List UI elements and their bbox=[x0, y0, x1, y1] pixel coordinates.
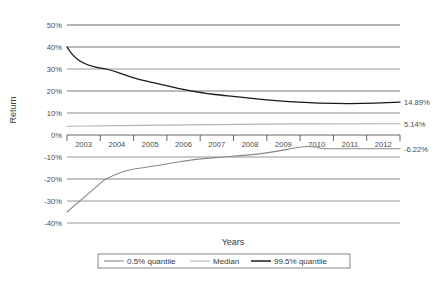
chart-legend: 0.5% quantile Median 99.5% quantile bbox=[98, 254, 350, 268]
y-tick-label-20: 20% bbox=[47, 87, 62, 96]
x-tick-label-2009: 2009 bbox=[275, 140, 292, 149]
x-tick-label-2006: 2006 bbox=[175, 140, 192, 149]
y-tick-label-neg40: -40% bbox=[44, 219, 62, 228]
legend-label-median: Median bbox=[213, 257, 239, 266]
y-tick-label-10: 10% bbox=[47, 109, 62, 118]
chart-svg: 50% 40% 30% 20% 10% 0% -10% -20% -30% -4… bbox=[0, 0, 446, 285]
x-axis-title: Years bbox=[222, 237, 245, 247]
end-label-median: 5.14% bbox=[404, 120, 426, 129]
x-tick-label-2008: 2008 bbox=[242, 140, 259, 149]
x-tick-label-2011: 2011 bbox=[342, 140, 358, 149]
y-tick-label-neg10: -10% bbox=[44, 153, 62, 162]
y-tick-label-30: 30% bbox=[47, 65, 62, 74]
x-tick-label-2004: 2004 bbox=[108, 140, 125, 149]
legend-label-lower-quantile: 0.5% quantile bbox=[127, 257, 176, 266]
x-tick-label-2007: 2007 bbox=[208, 140, 225, 149]
quantile-fan-chart: 50% 40% 30% 20% 10% 0% -10% -20% -30% -4… bbox=[0, 0, 446, 285]
y-tick-label-50: 50% bbox=[47, 21, 62, 30]
y-tick-label-neg30: -30% bbox=[44, 197, 62, 206]
y-tick-label-0: 0% bbox=[51, 131, 62, 140]
y-axis-title: Return bbox=[8, 96, 18, 123]
x-tick-label-2005: 2005 bbox=[142, 140, 159, 149]
end-label-upper-quantile: 14.89% bbox=[404, 98, 430, 107]
y-tick-label-40: 40% bbox=[47, 43, 62, 52]
end-label-lower-quantile: -6.22% bbox=[404, 145, 428, 154]
x-tick-label-2012: 2012 bbox=[375, 140, 392, 149]
x-tick-label-2003: 2003 bbox=[75, 140, 92, 149]
legend-label-upper-quantile: 99.5% quantile bbox=[274, 257, 327, 266]
y-tick-label-neg20: -20% bbox=[44, 175, 62, 184]
